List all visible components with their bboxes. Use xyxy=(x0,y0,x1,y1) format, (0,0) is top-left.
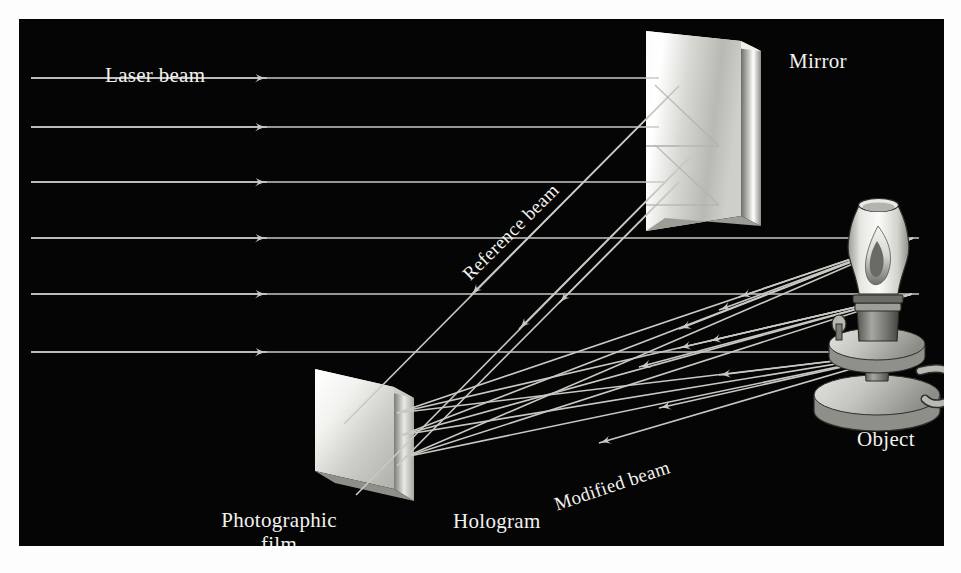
label-photographic-film-line1: Photographic xyxy=(221,508,337,532)
diagram-svg xyxy=(19,19,944,546)
label-object: Object xyxy=(857,427,915,452)
label-photographic-film: Photographicfilm xyxy=(199,509,359,546)
label-laser-beam: Laser beam xyxy=(105,63,205,88)
diagram-panel: Laser beam Mirror Reference beam Modifie… xyxy=(19,19,944,546)
photographic-film-object xyxy=(315,369,414,501)
figure-canvas: Laser beam Mirror Reference beam Modifie… xyxy=(0,0,961,573)
label-mirror: Mirror xyxy=(789,49,847,74)
label-hologram: Hologram xyxy=(453,509,541,534)
laser-beam-rays xyxy=(31,78,919,352)
label-photographic-film-line2: film xyxy=(261,532,297,546)
